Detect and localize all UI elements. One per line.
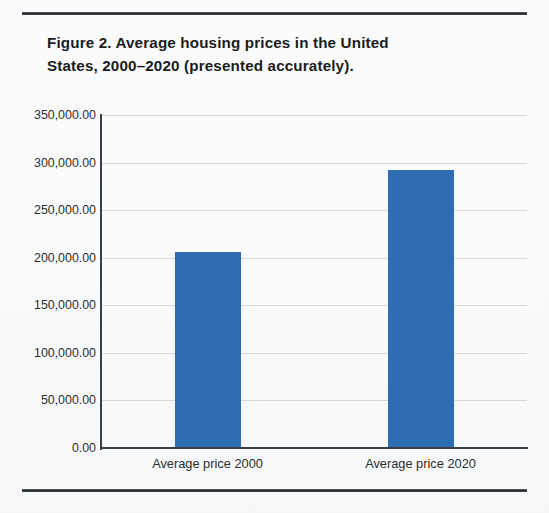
y-axis-tick-label: 150,000.00 bbox=[4, 298, 96, 312]
gridline bbox=[101, 258, 527, 259]
y-axis-tick-label: 200,000.00 bbox=[4, 251, 96, 265]
y-axis-tick-label: 300,000.00 bbox=[4, 156, 96, 170]
x-axis-category-label: Average price 2020 bbox=[365, 456, 476, 471]
y-axis-tick-label: 50,000.00 bbox=[4, 393, 96, 407]
gridline bbox=[101, 353, 527, 354]
y-axis-tick-label: 250,000.00 bbox=[4, 203, 96, 217]
y-axis-tick-label: 100,000.00 bbox=[4, 346, 96, 360]
gridline bbox=[101, 115, 527, 116]
gridline bbox=[101, 305, 527, 306]
y-axis-tick-label: 350,000.00 bbox=[4, 108, 96, 122]
bar bbox=[388, 170, 454, 448]
bottom-divider-rule bbox=[22, 489, 527, 492]
x-axis-line bbox=[100, 447, 528, 449]
x-axis-category-label: Average price 2000 bbox=[152, 456, 263, 471]
figure-page: Figure 2. Average housing prices in the … bbox=[0, 0, 549, 513]
bar-chart: 0.0050,000.00100,000.00150,000.00200,000… bbox=[0, 0, 549, 513]
bar bbox=[175, 252, 241, 448]
gridline bbox=[101, 163, 527, 164]
y-axis-line bbox=[100, 114, 102, 450]
plot-area bbox=[101, 115, 527, 448]
gridline bbox=[101, 210, 527, 211]
y-axis-tick-label: 0.00 bbox=[4, 441, 96, 455]
gridline bbox=[101, 400, 527, 401]
y-axis-tick-labels: 0.0050,000.00100,000.00150,000.00200,000… bbox=[0, 0, 96, 513]
